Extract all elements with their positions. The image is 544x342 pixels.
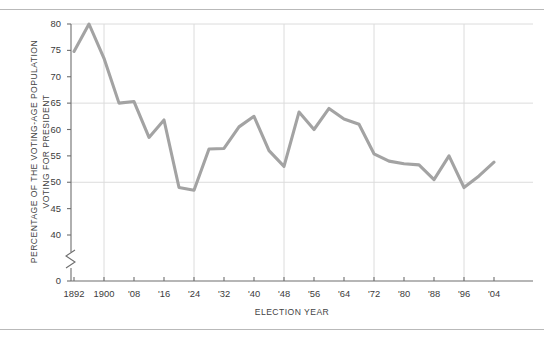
break-squiggle [66, 250, 75, 268]
x-tick-label: '04 [474, 288, 514, 299]
gridlines-group [71, 24, 533, 281]
tick-marks-group [67, 24, 494, 281]
y-tick-label: 50 [29, 176, 61, 187]
y-tick-label: 40 [29, 229, 61, 240]
y-tick-label: 0 [29, 275, 61, 286]
y-tick-label: 45 [29, 203, 61, 214]
y-tick-label: 60 [29, 124, 61, 135]
y-tick-label: 65 [29, 97, 61, 108]
y-tick-label: 75 [29, 44, 61, 55]
y-tick-label: 55 [29, 150, 61, 161]
y-tick-label: 70 [29, 71, 61, 82]
x-axis-title: ELECTION YEAR [0, 307, 544, 319]
axis-break-symbol [66, 250, 75, 268]
figure-container: PERCENTAGE OF THE VOTING-AGE POPULATIONV… [0, 0, 544, 342]
y-tick-label: 80 [29, 18, 61, 29]
